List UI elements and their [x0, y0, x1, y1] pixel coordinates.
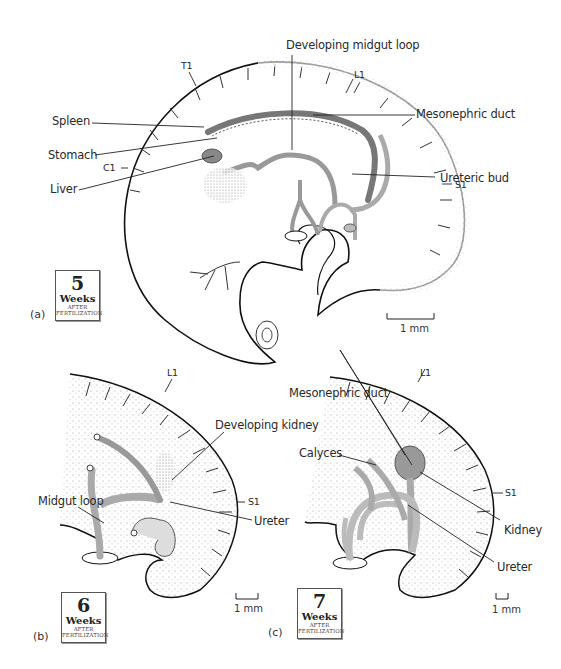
label-kidney: Kidney [504, 523, 542, 537]
label-l1: L1 [354, 69, 365, 80]
label-t1: T1 [181, 60, 192, 71]
label-developing-kidney: Developing kidney [215, 418, 319, 432]
scale-bar-label-a: 1 mm [400, 323, 429, 334]
label-s1-b: S1 [248, 496, 260, 507]
label-stomach: Stomach [48, 148, 97, 162]
label-ureter-c: Ureter [497, 560, 532, 574]
badge-unit: Weeks [56, 293, 99, 304]
embryo-5-weeks [125, 62, 465, 364]
scale-bar-label-c: 1 mm [492, 604, 521, 615]
age-badge-5-weeks: 5 Weeks AFTER FERTILIZATION [55, 270, 100, 321]
panel-label-c: (c) [268, 626, 283, 639]
panel-label-a: (a) [30, 308, 45, 321]
scale-bar-label-b: 1 mm [234, 603, 263, 614]
label-developing-midgut-loop: Developing midgut loop [286, 38, 419, 52]
label-c1: C1 [103, 162, 115, 173]
embryo-7-weeks [305, 377, 494, 598]
badge-fertilization: FERTILIZATION [298, 628, 341, 634]
badge-fertilization: FERTILIZATION [56, 310, 99, 316]
label-ureteric-bud: Ureteric bud [440, 171, 509, 185]
badge-number: 5 [56, 274, 99, 293]
label-calyces: Calyces [299, 446, 342, 460]
badge-fertilization: FERTILIZATION [62, 632, 105, 638]
badge-number: 6 [62, 596, 105, 615]
panel-label-b: (b) [33, 630, 49, 643]
label-l1-b: L1 [167, 367, 178, 378]
label-mesonephric-duct-c: Mesonephric duct [289, 386, 388, 400]
embryo-diagram-art [0, 0, 561, 669]
label-liver: Liver [50, 182, 77, 196]
label-ureter-b: Ureter [254, 514, 289, 528]
label-spleen: Spleen [52, 114, 90, 128]
age-badge-6-weeks: 6 Weeks AFTER FERTILIZATION [61, 592, 106, 643]
label-midgut-loop: Midgut loop [38, 494, 104, 508]
label-mesonephric-duct: Mesonephric duct [416, 107, 515, 121]
label-l1-c: L1 [420, 367, 431, 378]
badge-unit: Weeks [298, 611, 341, 622]
label-s1-c: S1 [505, 487, 517, 498]
badge-number: 7 [298, 592, 341, 611]
badge-unit: Weeks [62, 615, 105, 626]
label-s1: S1 [455, 179, 467, 190]
age-badge-7-weeks: 7 Weeks AFTER FERTILIZATION [297, 588, 342, 639]
embryo-6-weeks [60, 374, 237, 598]
